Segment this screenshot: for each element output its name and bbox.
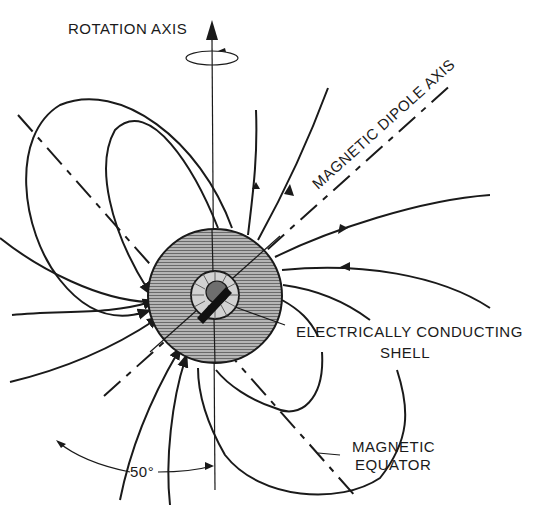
dipole-axis-label: MAGNETIC DIPOLE AXIS [309, 55, 459, 192]
magnetic-field-diagram: ROTATION AXIS MAGNETIC DIPOLE AXIS [0, 0, 543, 516]
equator-label-line1: MAGNETIC [352, 438, 435, 455]
conducting-shell [191, 271, 239, 319]
shell-label-line1: ELECTRICALLY CONDUCTING [296, 323, 523, 340]
equator-label-line2: EQUATOR [355, 456, 431, 473]
rotation-axis-label: ROTATION AXIS [68, 20, 187, 37]
angle-label: 50° [130, 463, 154, 480]
rotation-axis-arrow-icon [206, 20, 218, 40]
angle-arc [58, 442, 130, 472]
shell-label-line2: SHELL [380, 344, 430, 361]
